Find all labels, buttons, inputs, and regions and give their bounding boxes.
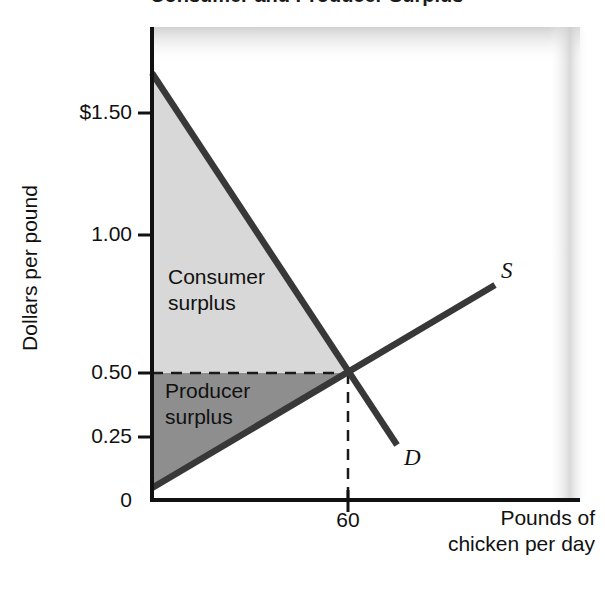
y-tick-label-025: 0.25: [36, 424, 132, 448]
x-axis-label-line1: Pounds of: [395, 505, 595, 531]
y-axis-label-text: Dollars per pound: [18, 185, 42, 351]
consumer-surplus-label-line1: Consumer: [168, 264, 265, 290]
top-shadow-artifact: [152, 27, 580, 63]
producer-surplus-label: Producer surplus: [165, 378, 250, 430]
y-tick-label-0: 0: [36, 488, 132, 512]
producer-surplus-label-line2: surplus: [165, 404, 250, 430]
y-tick-label-050: 0.50: [36, 360, 132, 384]
consumer-surplus-label-line2: surplus: [168, 290, 265, 316]
y-tick-label-100: 1.00: [36, 222, 132, 246]
right-shadow-artifact: [548, 27, 588, 502]
supply-curve-label: S: [501, 258, 513, 284]
producer-surplus-label-line1: Producer: [165, 378, 250, 404]
x-tick-label-60: 60: [318, 508, 378, 532]
demand-curve-label: D: [404, 445, 421, 471]
x-axis-label-line2: chicken per day: [395, 531, 595, 557]
consumer-surplus-label: Consumer surplus: [168, 264, 265, 316]
y-tick-label-150: $1.50: [36, 100, 132, 124]
x-axis-label: Pounds of chicken per day: [395, 505, 595, 557]
y-axis-label: Dollars per pound: [0, 170, 60, 365]
supply-demand-surplus-figure: Consumer and Producer Surplus: [0, 0, 605, 601]
